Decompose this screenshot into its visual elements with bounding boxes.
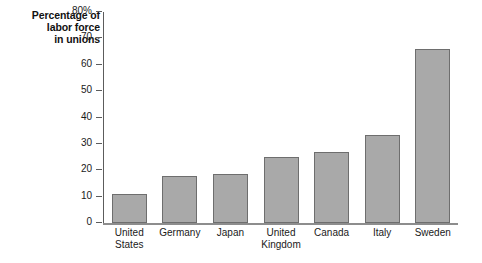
y-tick-mark — [96, 143, 102, 144]
bar-united-kingdom — [264, 157, 299, 223]
x-label-line: Italy — [357, 227, 408, 239]
y-tick-label: 70 — [46, 31, 92, 42]
y-tick-label: 40 — [46, 111, 92, 122]
bar-series — [104, 12, 458, 223]
y-tick-mark — [96, 11, 102, 12]
x-label-line: States — [104, 239, 155, 251]
bar-slot — [314, 12, 349, 223]
bar-italy — [365, 135, 400, 223]
bar-japan — [213, 174, 248, 223]
bar-canada — [314, 152, 349, 223]
y-tick-label: 10 — [46, 190, 92, 201]
bar-slot — [365, 12, 400, 223]
bar-sweden — [415, 49, 450, 223]
bar-slot — [264, 12, 299, 223]
x-label-united-kingdom: UnitedKingdom — [256, 227, 307, 250]
x-label-line: Germany — [155, 227, 206, 239]
x-label-united-states: UnitedStates — [104, 227, 155, 250]
x-label-canada: Canada — [306, 227, 357, 239]
x-label-japan: Japan — [205, 227, 256, 239]
y-tick-mark — [96, 117, 102, 118]
bar-slot — [415, 12, 450, 223]
y-tick-label: 30 — [46, 137, 92, 148]
x-label-italy: Italy — [357, 227, 408, 239]
x-label-line: Japan — [205, 227, 256, 239]
y-tick-mark — [96, 222, 102, 223]
x-label-sweden: Sweden — [407, 227, 458, 239]
x-label-line: Canada — [306, 227, 357, 239]
x-label-germany: Germany — [155, 227, 206, 239]
y-tick-label: 80% — [46, 5, 92, 16]
x-label-line: Sweden — [407, 227, 458, 239]
y-tick-label: 50 — [46, 84, 92, 95]
x-label-line: Kingdom — [256, 239, 307, 251]
y-tick-mark — [96, 37, 102, 38]
y-tick-label: 60 — [46, 58, 92, 69]
y-tick-label: 0 — [46, 216, 92, 227]
bar-united-states — [112, 194, 147, 223]
y-tick-mark — [96, 90, 102, 91]
bar-slot — [213, 12, 248, 223]
bar-slot — [112, 12, 147, 223]
y-tick-mark — [96, 64, 102, 65]
x-label-line: United — [104, 227, 155, 239]
union-membership-bar-chart: Percentage of labor force in unions 0102… — [0, 0, 482, 263]
y-tick-mark — [96, 169, 102, 170]
bar-germany — [162, 176, 197, 223]
x-label-line: United — [256, 227, 307, 239]
y-tick-mark — [96, 196, 102, 197]
x-axis-baseline — [103, 223, 458, 225]
x-axis-labels: UnitedStatesGermanyJapanUnitedKingdomCan… — [104, 227, 458, 261]
y-tick-label: 20 — [46, 163, 92, 174]
bar-slot — [162, 12, 197, 223]
